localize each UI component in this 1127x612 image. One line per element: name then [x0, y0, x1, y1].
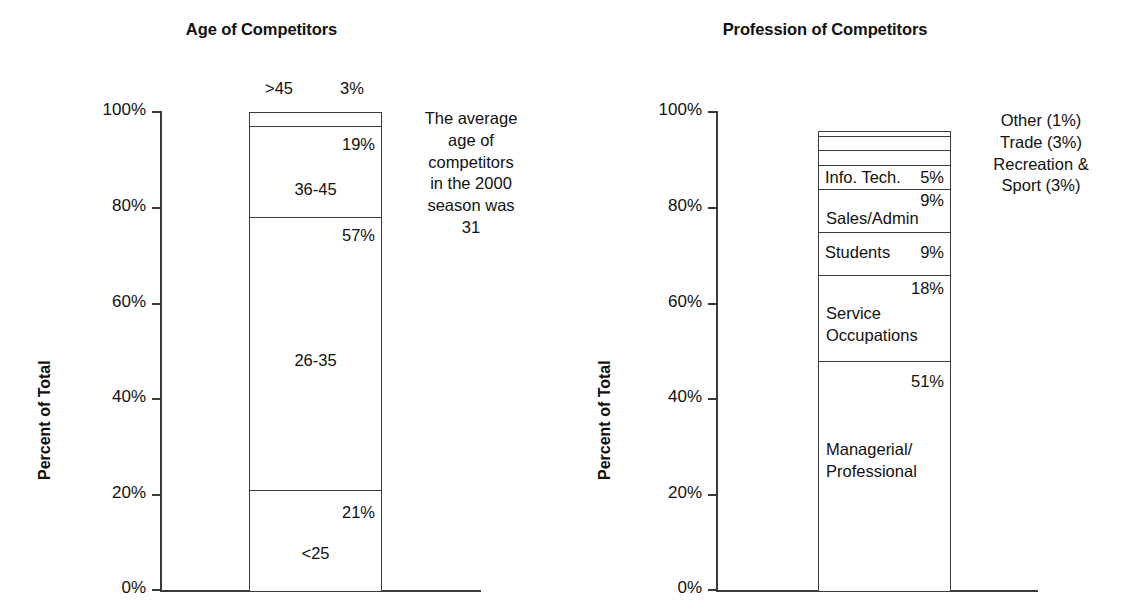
age-segment-26-35-pct: 57% — [342, 226, 375, 245]
profession-stacked-bar[interactable]: Info. Tech. 5% 9% Sales/Admin Students 9… — [818, 131, 951, 591]
profession-tick-60 — [708, 303, 718, 305]
profession-segment-managerial-professional-pct: 51% — [911, 372, 944, 391]
age-segment-36-45-name: 36-45 — [250, 180, 381, 198]
profession-segment-managerial-professional-name: Managerial/ — [826, 440, 912, 458]
profession-segment-managerial-professional[interactable]: 51% Managerial/ Professional — [819, 362, 950, 591]
profession-segment-trade[interactable] — [819, 137, 950, 151]
age-tick-60 — [152, 303, 162, 305]
profession-tick-label-40: 40% — [616, 387, 702, 407]
profession-segment-sales-admin-pct: 9% — [920, 191, 944, 210]
age-tick-80 — [152, 207, 162, 209]
profession-tick-label-100: 100% — [616, 100, 702, 120]
age-segment-over-45[interactable] — [250, 113, 381, 127]
age-segment-36-45-pct: 19% — [342, 135, 375, 154]
profession-segment-info-tech-row: Info. Tech. 5% — [825, 168, 944, 187]
age-of-competitors-chart: Age of Competitors Percent of Total 100%… — [0, 0, 563, 612]
profession-segment-info-tech-name: Info. Tech. — [825, 168, 901, 187]
age-segment-pct-over45: 3% — [340, 79, 364, 98]
profession-y-axis-line — [716, 112, 718, 591]
age-chart-title: Age of Competitors — [0, 20, 543, 39]
age-y-axis-line — [160, 112, 162, 591]
age-stacked-bar[interactable]: 19% 36-45 57% 26-35 21% <25 — [249, 112, 382, 591]
profession-legend-item-recreation: Recreation & — [961, 154, 1121, 176]
age-note-line-6: 31 — [396, 217, 546, 239]
profession-y-axis-title: Percent of Total — [596, 360, 614, 480]
age-tick-label-40: 40% — [60, 387, 146, 407]
age-segment-under-25-name: <25 — [250, 544, 381, 562]
profession-legend: Other (1%) Trade (3%) Recreation & Sport… — [961, 110, 1121, 197]
profession-tick-label-60: 60% — [616, 292, 702, 312]
profession-tick-40 — [708, 398, 718, 400]
profession-segment-service-occupations[interactable]: 18% Service Occupations — [819, 276, 950, 362]
age-tick-label-0: 0% — [60, 578, 146, 598]
profession-segment-info-tech-pct: 5% — [920, 168, 944, 187]
profession-segment-students-pct: 9% — [920, 243, 944, 262]
profession-tick-label-20: 20% — [616, 483, 702, 503]
age-y-axis-title: Percent of Total — [36, 360, 54, 480]
profession-tick-100 — [708, 111, 718, 113]
profession-legend-item-trade: Trade (3%) — [961, 132, 1121, 154]
profession-tick-label-80: 80% — [616, 196, 702, 216]
profession-segment-info-tech[interactable]: Info. Tech. 5% — [819, 166, 950, 190]
age-tick-40 — [152, 398, 162, 400]
age-tick-label-60: 60% — [60, 292, 146, 312]
age-segment-under-25[interactable]: 21% <25 — [250, 491, 381, 591]
profession-segment-service-occupations-name2: Occupations — [826, 326, 918, 344]
age-tick-label-20: 20% — [60, 483, 146, 503]
age-note-line-3: competitors — [396, 152, 546, 174]
age-tick-0 — [152, 589, 162, 591]
profession-segment-service-occupations-pct: 18% — [911, 279, 944, 298]
age-average-note: The average age of competitors in the 20… — [396, 108, 546, 239]
profession-tick-label-0: 0% — [616, 578, 702, 598]
profession-tick-80 — [708, 207, 718, 209]
age-note-line-5: season was — [396, 195, 546, 217]
profession-segment-managerial-professional-name2: Professional — [826, 462, 917, 480]
profession-legend-item-sport: Sport (3%) — [961, 175, 1121, 197]
age-tick-label-80: 80% — [60, 196, 146, 216]
profession-of-competitors-chart: Profession of Competitors Percent of Tot… — [563, 0, 1127, 612]
age-segment-label-over45: >45 — [265, 79, 293, 98]
age-segment-36-45[interactable]: 19% 36-45 — [250, 127, 381, 218]
profession-tick-0 — [708, 589, 718, 591]
age-segment-26-35-name: 26-35 — [250, 351, 381, 369]
profession-legend-item-other: Other (1%) — [961, 110, 1121, 132]
profession-segment-sales-admin[interactable]: 9% Sales/Admin — [819, 190, 950, 233]
age-segment-26-35[interactable]: 57% 26-35 — [250, 218, 381, 491]
profession-segment-service-occupations-name: Service — [826, 304, 881, 322]
age-segment-under-25-pct: 21% — [342, 503, 375, 522]
profession-segment-students-row: Students 9% — [825, 243, 944, 262]
profession-segment-recreation-sport[interactable] — [819, 151, 950, 166]
profession-segment-sales-admin-name: Sales/Admin — [826, 209, 919, 227]
profession-segment-students-name: Students — [825, 243, 890, 262]
age-note-line-1: The average — [396, 108, 546, 130]
age-note-line-2: age of — [396, 130, 546, 152]
age-note-line-4: in the 2000 — [396, 173, 546, 195]
age-tick-label-100: 100% — [60, 100, 146, 120]
age-tick-20 — [152, 494, 162, 496]
profession-tick-20 — [708, 494, 718, 496]
age-tick-100 — [152, 111, 162, 113]
profession-segment-students[interactable]: Students 9% — [819, 233, 950, 276]
profession-chart-title: Profession of Competitors — [543, 20, 1107, 39]
